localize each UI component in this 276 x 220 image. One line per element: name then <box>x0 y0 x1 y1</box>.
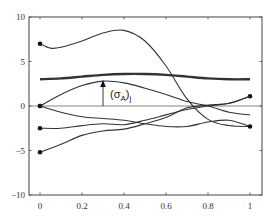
point-marker-icon <box>38 41 43 46</box>
point-marker-icon <box>38 150 43 155</box>
x-tick-label: 0.8 <box>202 201 214 211</box>
y-tick-label: −10 <box>11 190 26 200</box>
annotation-label: (σA)j <box>110 88 131 103</box>
point-marker-icon <box>248 124 253 129</box>
x-tick-label: 0.2 <box>76 201 87 211</box>
x-tick-label: 1 <box>248 201 253 211</box>
series-group <box>38 30 253 155</box>
series-envelope <box>40 74 250 80</box>
y-tick-label: 0 <box>21 101 26 111</box>
x-tick-label: 0.6 <box>160 201 172 211</box>
y-tick-label: −5 <box>15 146 25 156</box>
tick-labels: 00.20.40.60.811050−5−10 <box>11 12 252 211</box>
y-tick-label: 5 <box>21 57 26 67</box>
point-marker-icon <box>38 104 43 109</box>
x-tick-label: 0.4 <box>118 201 130 211</box>
sigma-annotation: (σA)j <box>100 80 131 106</box>
line-chart: 00.20.40.60.811050−5−10 (σA)j <box>0 0 276 220</box>
point-marker-icon <box>38 126 43 131</box>
x-tick-label: 0 <box>38 201 43 211</box>
series-curve-5 <box>40 96 250 152</box>
y-tick-label: 10 <box>16 12 26 22</box>
series-curve-2 <box>40 81 250 115</box>
